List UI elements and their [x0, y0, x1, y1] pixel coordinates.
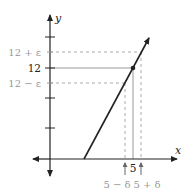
- x-label-center: 5: [130, 162, 137, 174]
- x-label-left: 5 − δ: [103, 179, 130, 190]
- y-label-lower: 12 − ε: [8, 78, 41, 89]
- y-label-upper: 12 + ε: [8, 47, 41, 58]
- limit-point: [131, 66, 136, 71]
- y-axis-label: y: [54, 12, 62, 25]
- y-label-center: 12: [28, 62, 41, 74]
- x-label-right: 5 + δ: [133, 179, 160, 190]
- function-line: [84, 38, 149, 159]
- epsilon-delta-diagram: y x 12 + ε 12 12 − ε 5 5 − δ 5 + δ: [0, 0, 191, 194]
- x-axis-label: x: [175, 144, 182, 157]
